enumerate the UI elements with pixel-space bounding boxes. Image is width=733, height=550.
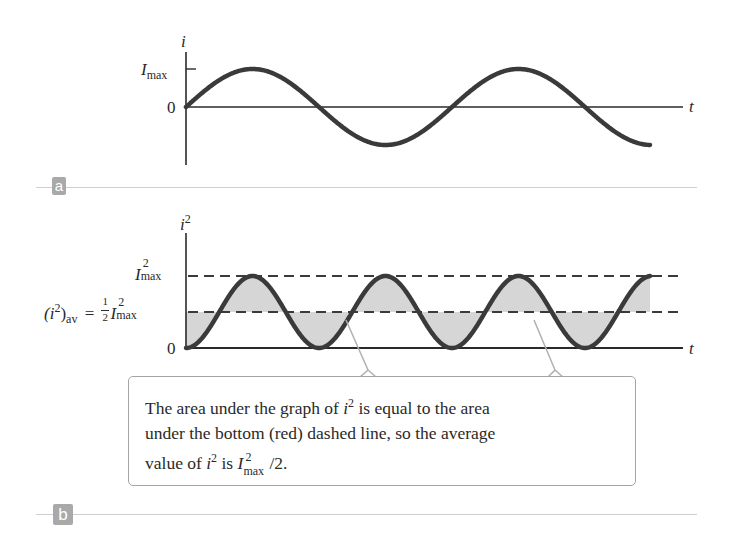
panel-a-divider — [36, 187, 697, 188]
panel-b-y-axis-label: i2 — [180, 213, 191, 233]
callout-text: /2. — [269, 453, 287, 473]
panel-b-x-axis-label: t — [689, 340, 694, 357]
panel-a-plot — [186, 52, 683, 165]
one-half-fraction: 12 — [101, 302, 110, 326]
panel-b-divider — [36, 514, 697, 515]
avg-rhs-sub: max — [116, 309, 137, 321]
panel-a-imax-label: Imax — [141, 61, 167, 81]
avg-lhs: (i — [44, 304, 54, 323]
callout-text: is — [217, 453, 237, 473]
callout-box: The area under the graph of i2 is equal … — [128, 376, 636, 486]
avg-lhs-sub: av — [66, 312, 77, 326]
callout-line-1: The area under the graph of i2 is equal … — [145, 391, 635, 421]
panel-a-x-axis-label: t — [689, 98, 694, 115]
callout-line-3: value of i2 is I2max/2. — [145, 446, 635, 476]
panel-b-plot — [186, 233, 684, 377]
imax-subscript: max — [147, 68, 168, 82]
imax2-sup: 2 — [143, 257, 149, 269]
frac-den: 2 — [102, 312, 108, 323]
avg-rhs-sup: 2 — [118, 296, 124, 308]
squared-superscript: 2 — [185, 212, 191, 226]
panel-b-badge: b — [53, 504, 73, 525]
panel-a-zero-label: 0 — [167, 99, 176, 116]
panel-b-zero-label: 0 — [167, 340, 176, 357]
callout-text: is equal to the area — [354, 398, 490, 418]
panel-a-badge: a — [52, 177, 66, 195]
panel-a-y-axis-label: i — [181, 33, 186, 50]
panel-b-imax2-label: I2max — [135, 266, 171, 286]
equals-sign: = — [85, 304, 95, 323]
imax2-sub: max — [141, 270, 162, 282]
callout-text: The area under the graph of — [145, 398, 343, 418]
frac-num: 1 — [102, 296, 108, 307]
panel-b-average-label: (i2)av = 12I2max — [44, 302, 146, 327]
callout-imax-sub: max — [243, 459, 264, 484]
callout-text: value of — [145, 453, 206, 473]
callout-line-2: under the bottom (red) dashed line, so t… — [145, 421, 635, 446]
